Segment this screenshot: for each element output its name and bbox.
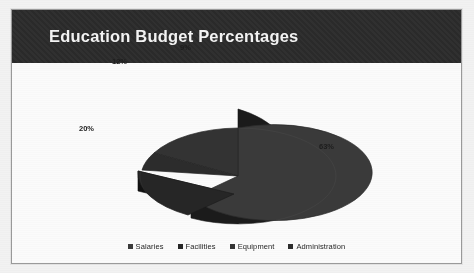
- legend-swatch-icon: [178, 244, 183, 249]
- legend: Salaries Facilities Equipment Administra…: [12, 242, 461, 251]
- legend-item-label: Salaries: [136, 242, 164, 251]
- plot-area: 63% 20% 12% 9% Salaries Facilities Equip…: [12, 63, 461, 263]
- legend-swatch-icon: [288, 244, 293, 249]
- legend-item-facilities[interactable]: Facilities: [178, 242, 216, 251]
- legend-item-salaries[interactable]: Salaries: [128, 242, 164, 251]
- pie-label-facilities: 20%: [79, 124, 94, 133]
- pie-chart-svg: [12, 63, 463, 233]
- legend-item-label: Equipment: [238, 242, 275, 251]
- pie-label-equipment: 12%: [112, 57, 127, 66]
- title-band: Education Budget Percentages: [12, 10, 461, 63]
- legend-item-equipment[interactable]: Equipment: [230, 242, 275, 251]
- chart-screenshot: Education Budget Percentages: [0, 0, 474, 273]
- pie-chart: 63% 20% 12% 9%: [12, 63, 463, 233]
- legend-item-label: Administration: [296, 242, 345, 251]
- pie-label-administration: 9%: [180, 43, 191, 52]
- pie-label-salaries: 63%: [319, 142, 334, 151]
- legend-item-administration[interactable]: Administration: [288, 242, 345, 251]
- legend-item-label: Facilities: [186, 242, 216, 251]
- page-title: Education Budget Percentages: [49, 27, 298, 46]
- legend-swatch-icon: [128, 244, 133, 249]
- chart-card: Education Budget Percentages: [11, 9, 462, 264]
- legend-swatch-icon: [230, 244, 235, 249]
